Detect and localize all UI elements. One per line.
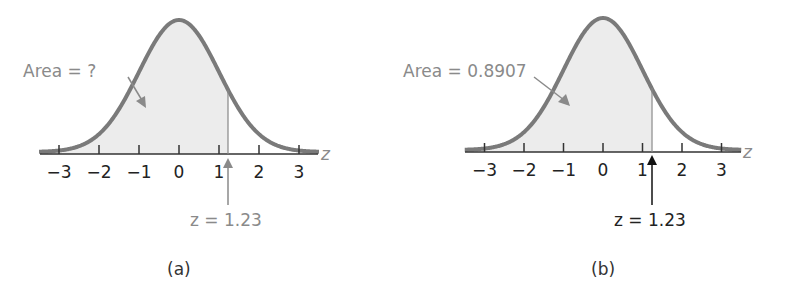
tick-label: 0	[598, 160, 609, 180]
caption-a: (a)	[167, 259, 191, 279]
z-arrowhead-b	[647, 155, 657, 165]
tick-label: 3	[294, 162, 305, 182]
tick-label: 3	[716, 160, 727, 180]
z-value-label-b: z = 1.23	[614, 210, 686, 230]
normal-curve-figure: −3−2−10123 z Area = ? z = 1.23 (a) −3−2−…	[0, 0, 798, 296]
axis-variable-b: z	[742, 142, 753, 162]
area-label-a: Area = ?	[23, 61, 96, 81]
tick-label: 1	[637, 160, 648, 180]
area-label-b: Area = 0.8907	[403, 61, 527, 81]
panel-a: −3−2−10123 z Area = ? z = 1.23 (a)	[23, 20, 331, 279]
z-value-label-a: z = 1.23	[190, 210, 262, 230]
axis-variable-a: z	[320, 144, 331, 164]
tick-label: −2	[86, 162, 111, 182]
caption-b: (b)	[591, 259, 615, 279]
tick-label: −1	[126, 162, 151, 182]
tick-label: −2	[511, 160, 536, 180]
tick-label: 2	[254, 162, 265, 182]
tick-label: −1	[551, 160, 576, 180]
z-arrowhead-a	[223, 158, 233, 168]
tick-label: 2	[677, 160, 688, 180]
panel-b: −3−2−10123 z Area = 0.8907 z = 1.23 (b)	[403, 18, 753, 279]
tick-label: −3	[46, 162, 71, 182]
tick-label: 1	[214, 162, 225, 182]
tick-label: 0	[174, 162, 185, 182]
tick-label: −3	[472, 160, 497, 180]
